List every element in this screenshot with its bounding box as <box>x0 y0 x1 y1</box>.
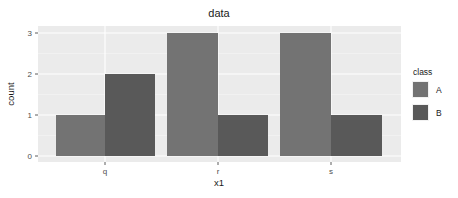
legend-label-a: A <box>436 85 442 95</box>
y-tick-labels: 0 1 2 3 <box>28 29 33 161</box>
x-axis-title: x1 <box>214 177 224 188</box>
y-tick-label: 2 <box>28 70 33 79</box>
legend-key-b <box>413 105 428 120</box>
bar-r-A <box>167 33 218 156</box>
x-tick-label-q: q <box>103 167 107 176</box>
legend-key-a <box>413 82 428 97</box>
bar-s-A <box>280 33 331 156</box>
y-axis-title: count <box>5 82 16 106</box>
bar-s-B <box>331 115 382 156</box>
legend-title: class <box>413 67 432 77</box>
bar-r-B <box>218 115 268 156</box>
bar-q-A <box>56 115 105 156</box>
x-tick-labels: q r s <box>103 167 333 176</box>
bar-chart: data 0 1 2 3 q r <box>0 0 458 198</box>
y-tick-label: 0 <box>28 152 33 161</box>
bar-q-B <box>105 74 155 156</box>
y-tick-label: 1 <box>28 111 33 120</box>
x-tick-label-r: r <box>217 167 220 176</box>
legend: class A B <box>412 67 442 121</box>
chart-title: data <box>208 7 230 19</box>
y-tick-label: 3 <box>28 29 33 38</box>
x-tick-label-s: s <box>329 167 333 176</box>
legend-label-b: B <box>436 108 442 118</box>
